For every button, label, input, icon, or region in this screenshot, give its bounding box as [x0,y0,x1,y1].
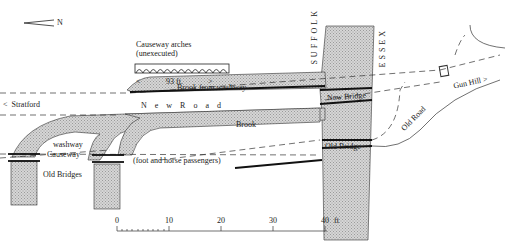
washway-label: washway [53,140,83,149]
brook-from-washway-label: Brook from washway [177,83,246,92]
foot-horse-label: (foot and horse passengers) [133,156,221,165]
brook-lower [118,108,320,155]
scale-tick-20: 20 [217,216,225,225]
causeway-arches-label: Causeway arches [136,40,191,49]
brook-label: Brook [236,120,256,129]
scale-tick-40: 40 [321,216,329,225]
stratford-text: Stratford [12,100,40,109]
scale-tick-0: 0 [115,216,119,225]
old-bridges-label: Old Bridges [43,170,82,179]
scale-tick-30: 30 [269,216,277,225]
new-road-label: N e w R o a d [141,101,224,110]
scale-tick-10: 10 [165,216,173,225]
suffolk-label: SUFFOLK [310,8,319,65]
stratford-label: < Stratford [3,100,40,109]
essex-label: ESSEX [378,28,387,67]
arch-span-left: < [136,77,141,86]
north-arrow-icon [24,20,54,26]
pier-east [94,164,120,209]
pier-west [11,161,37,205]
scale-unit: ft [334,216,339,225]
river-channel [320,26,374,240]
north-label: N [57,18,63,27]
causeway-arches-icon [135,64,229,73]
causeway-label: Causeway [47,150,80,159]
old-bridge-label: Old Bridge [325,142,361,151]
scale-bar [117,226,327,231]
unexecuted-label: (unexecuted) [136,49,178,58]
